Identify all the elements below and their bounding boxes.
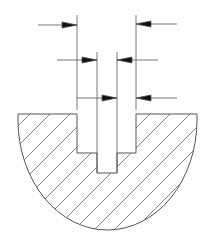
extension-lines <box>77 15 136 173</box>
technical-drawing <box>0 0 208 244</box>
arrow-left-icon <box>136 21 151 27</box>
arrow-right-icon <box>82 57 97 63</box>
part-section <box>0 44 208 244</box>
arrow-left-icon <box>136 95 151 101</box>
arrow-right-icon <box>62 22 77 28</box>
arrow-right-icon <box>102 95 117 101</box>
arrow-left-icon <box>117 57 132 63</box>
dimension-arrows <box>38 21 177 101</box>
